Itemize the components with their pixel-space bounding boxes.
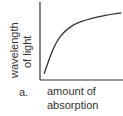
panel-label: a. — [19, 86, 28, 98]
data-curve — [44, 13, 121, 74]
x-axis-label-line-1: amount of — [47, 84, 98, 98]
x-axis-label-line-2: absorption — [47, 98, 98, 112]
x-axis-label: amount of absorption — [47, 84, 98, 112]
y-axis-label: wavelength of light — [3, 4, 37, 78]
y-axis-label-line-2: of light — [21, 36, 33, 68]
y-axis-label-line-1: wavelength — [8, 22, 20, 78]
